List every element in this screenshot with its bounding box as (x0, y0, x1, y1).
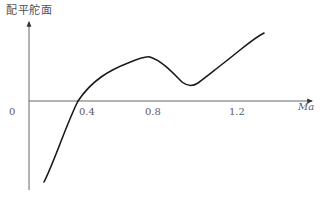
origin-label: 0 (9, 107, 15, 117)
chart-plot (0, 0, 326, 201)
x-tick-label: 0.4 (79, 107, 95, 117)
x-tick-label: 0.8 (145, 107, 161, 117)
x-tick-label: 1.2 (229, 107, 245, 117)
y-axis-title: 配平舵面 (6, 5, 52, 16)
x-axis-title: Ma (298, 102, 314, 112)
trim-rudder-chart: 配平舵面 0 0.4 0.8 1.2 Ma (0, 0, 326, 201)
